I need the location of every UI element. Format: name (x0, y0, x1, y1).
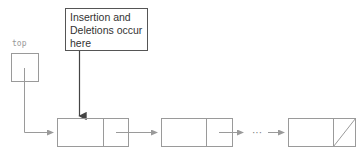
top-pointer-label: top (12, 39, 42, 48)
linked-list-stack-diagram: ··· top Insertion and Deletions occur he… (0, 0, 364, 167)
list-node-1 (58, 119, 158, 147)
list-node-3 (289, 119, 356, 147)
diagram-canvas: ··· (0, 0, 364, 167)
callout-box: Insertion and Deletions occur here (65, 8, 148, 51)
top-pointer-box (12, 54, 54, 133)
list-node-2 (162, 119, 244, 147)
ellipsis: ··· (252, 127, 262, 138)
null-link-slash (334, 119, 356, 147)
